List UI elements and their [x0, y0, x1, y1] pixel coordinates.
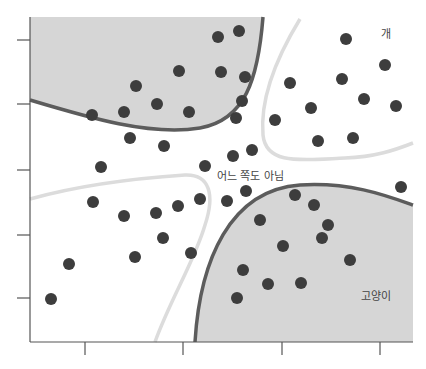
data-point: [118, 106, 130, 118]
data-point: [45, 293, 57, 305]
data-point: [395, 181, 407, 193]
data-point: [95, 161, 107, 173]
data-point: [236, 95, 248, 107]
data-point: [230, 112, 242, 124]
data-point: [322, 219, 334, 231]
data-point: [336, 73, 348, 85]
data-point: [237, 264, 249, 276]
neither-label: 어느 쪽도 아님: [217, 170, 284, 183]
data-point: [130, 80, 142, 92]
data-point: [199, 160, 211, 172]
data-point: [312, 135, 324, 147]
data-point: [157, 232, 169, 244]
data-point: [129, 251, 141, 263]
data-point: [212, 31, 224, 43]
data-point: [194, 193, 206, 205]
data-point: [340, 33, 352, 45]
data-point: [344, 254, 356, 266]
data-point: [172, 200, 184, 212]
data-point: [150, 207, 162, 219]
data-point: [221, 195, 233, 207]
data-point: [379, 59, 391, 71]
data-point: [151, 98, 163, 110]
data-point: [86, 109, 98, 121]
data-point: [277, 240, 289, 252]
data-point: [390, 100, 402, 112]
data-point: [358, 93, 370, 105]
data-point: [254, 214, 266, 226]
data-point: [289, 189, 301, 201]
data-point: [295, 277, 307, 289]
data-point: [308, 199, 320, 211]
data-point: [215, 66, 227, 78]
data-point: [316, 232, 328, 244]
data-point: [239, 71, 251, 83]
dog-label: 개: [381, 28, 391, 41]
data-point: [118, 210, 130, 222]
data-point: [158, 140, 170, 152]
data-point: [63, 258, 75, 270]
data-point: [305, 102, 317, 114]
data-point: [231, 292, 243, 304]
bottom-left-boundary: [30, 175, 210, 342]
data-point: [284, 77, 296, 89]
data-point: [347, 132, 359, 144]
data-point: [227, 150, 239, 162]
data-point: [246, 144, 258, 156]
data-point: [262, 278, 274, 290]
data-point: [87, 196, 99, 208]
top-left-region: [30, 17, 263, 130]
data-point: [183, 106, 195, 118]
cat-label: 고양이: [361, 290, 391, 303]
data-point: [240, 185, 252, 197]
data-point: [124, 132, 136, 144]
cat-region: [195, 185, 413, 342]
y-ticks: [17, 40, 30, 298]
data-point: [173, 65, 185, 77]
decision-boundary-diagram: 개 고양이 어느 쪽도 아님: [0, 0, 426, 369]
data-point: [269, 114, 281, 126]
data-point: [185, 247, 197, 259]
x-ticks: [85, 342, 380, 355]
data-point: [233, 25, 245, 37]
